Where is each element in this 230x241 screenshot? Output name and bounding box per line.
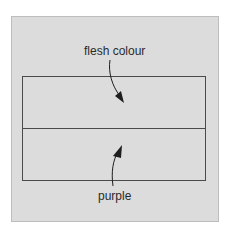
up-arrow-icon (112, 145, 122, 186)
arrows (0, 0, 230, 241)
down-arrow-icon (109, 60, 124, 103)
